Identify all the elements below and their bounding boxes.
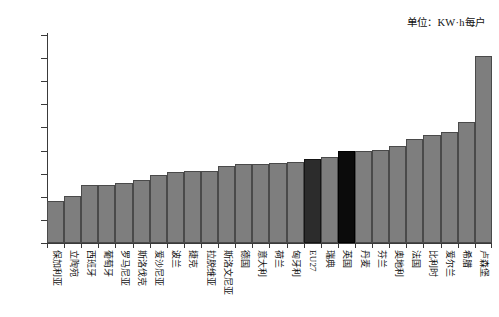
x-axis-label: 波兰 [171, 250, 180, 268]
bar-slot [81, 35, 98, 243]
bar-slot [389, 35, 406, 243]
x-axis-label: 斯洛文尼亚 [222, 250, 231, 295]
bar[interactable] [475, 56, 492, 243]
x-axis-label-slot: 保加利亚 [47, 250, 64, 316]
x-axis-labels: 保加利亚立陶宛西班牙葡萄牙罗马尼亚斯洛伐克爱沙尼亚波兰捷克拉脱维亚斯洛文尼亚德国… [47, 250, 492, 316]
x-axis-label: 斯洛伐克 [137, 250, 146, 286]
bar[interactable] [269, 163, 286, 243]
bar[interactable] [252, 164, 269, 244]
x-axis-label-slot: 爱沙尼亚 [150, 250, 167, 316]
x-axis-tick [458, 243, 475, 248]
bar[interactable] [338, 151, 355, 243]
bar[interactable] [441, 132, 458, 243]
x-axis-tick [201, 243, 218, 248]
bar-slot [115, 35, 132, 243]
bar-slot [167, 35, 184, 243]
bar[interactable] [218, 166, 235, 243]
x-axis-label-slot: 葡萄牙 [98, 250, 115, 316]
x-axis-label: 保加利亚 [51, 250, 60, 286]
bar-slot [423, 35, 440, 243]
x-axis-label: 瑞典 [325, 250, 334, 268]
y-axis-tick-label-wrap: 35 000 [0, 81, 47, 82]
bar-slot [458, 35, 475, 243]
x-axis-label-slot: 法国 [406, 250, 423, 316]
bar[interactable] [133, 180, 150, 243]
bar[interactable] [167, 172, 184, 243]
x-axis-label-slot: 卢森堡 [475, 250, 492, 316]
x-axis-label-slot: 比利时 [423, 250, 440, 316]
bar-slot [372, 35, 389, 243]
bar[interactable] [458, 122, 475, 243]
x-axis-label: EU27 [308, 250, 317, 272]
bar[interactable] [98, 185, 115, 243]
bar-slot [184, 35, 201, 243]
x-axis-label: 奥地利 [393, 250, 402, 277]
x-axis-tick [235, 243, 252, 248]
unit-annotation: 单位：KW·h每户 [407, 14, 485, 29]
x-axis-label: 罗马尼亚 [119, 250, 128, 286]
x-axis-label-slot: 丹麦 [355, 250, 372, 316]
bar[interactable] [406, 139, 423, 243]
bar[interactable] [64, 196, 81, 243]
x-axis-label-slot: 瑞典 [321, 250, 338, 316]
x-axis-label: 卢森堡 [479, 250, 488, 277]
bar[interactable] [81, 185, 98, 243]
y-axis-tick-label-wrap: 10 000 [0, 197, 47, 198]
bar[interactable] [372, 150, 389, 243]
bar[interactable] [389, 146, 406, 243]
x-axis-tick [372, 243, 389, 248]
x-axis-label: 芬兰 [376, 250, 385, 268]
y-axis-tick-label-wrap: 5 000 [0, 220, 47, 221]
bar-slot [441, 35, 458, 243]
bar-slot [201, 35, 218, 243]
x-axis-label-slot: 奥地利 [389, 250, 406, 316]
x-axis-label: 爱尔兰 [445, 250, 454, 277]
x-axis-label: 丹麦 [359, 250, 368, 268]
bar[interactable] [423, 135, 440, 243]
bar-slot [150, 35, 167, 243]
x-axis-tick [475, 243, 492, 248]
x-axis-label-slot: 匈牙利 [287, 250, 304, 316]
x-axis-label-slot: 德国 [235, 250, 252, 316]
bar[interactable] [47, 201, 64, 243]
y-axis-tick-label-wrap: 0 [0, 243, 47, 244]
bar-slot [355, 35, 372, 243]
bar[interactable] [115, 183, 132, 243]
bar[interactable] [184, 171, 201, 243]
x-axis-tick [115, 243, 132, 248]
x-axis-label-slot: 立陶宛 [64, 250, 81, 316]
x-axis-label-slot: 希腊 [458, 250, 475, 316]
x-axis-label: 爱沙尼亚 [154, 250, 163, 286]
y-axis-tick-label-wrap: 30 000 [0, 104, 47, 105]
bar[interactable] [355, 151, 372, 243]
x-axis-label-slot: 斯洛文尼亚 [218, 250, 235, 316]
x-axis-label-slot: 波兰 [167, 250, 184, 316]
x-axis-label: 匈牙利 [291, 250, 300, 277]
bar[interactable] [150, 175, 167, 243]
bar-slot [235, 35, 252, 243]
bar-slot [269, 35, 286, 243]
y-axis-tick-label-wrap: 20 000 [0, 151, 47, 152]
x-axis-label-slot: 荷兰 [269, 250, 286, 316]
bar[interactable] [304, 159, 321, 243]
bar-slot [321, 35, 338, 243]
bar-slot [64, 35, 81, 243]
x-axis-label-slot: 罗马尼亚 [115, 250, 132, 316]
x-axis-label: 捷克 [188, 250, 197, 268]
bar[interactable] [287, 162, 304, 243]
x-axis-label: 德国 [239, 250, 248, 268]
bar[interactable] [321, 157, 338, 243]
x-axis-label-slot: 英国 [338, 250, 355, 316]
x-axis-label: 法国 [410, 250, 419, 268]
bar[interactable] [201, 171, 218, 243]
bar[interactable] [235, 164, 252, 243]
x-axis-label-slot: 拉脱维亚 [201, 250, 218, 316]
y-axis-tick-label-wrap: 45 000 [0, 35, 47, 36]
x-axis-tick [423, 243, 440, 248]
x-axis-label: 比利时 [427, 250, 436, 277]
bar-slot [338, 35, 355, 243]
x-axis-label-slot: 斯洛伐克 [133, 250, 150, 316]
x-axis-tick [269, 243, 286, 248]
x-axis-label: 英国 [342, 250, 351, 268]
y-axis-tick-label-wrap: 25 000 [0, 127, 47, 128]
